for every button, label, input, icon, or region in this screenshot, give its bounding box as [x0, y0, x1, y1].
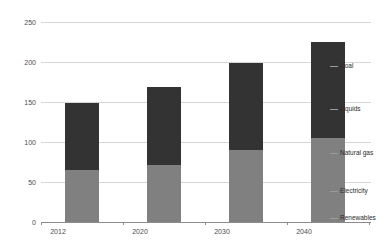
legend: Coal Liquids Natural gas Electricity Ren…: [330, 0, 389, 246]
plot-area: [41, 22, 371, 222]
bar-segment-gray-2012: [65, 170, 99, 222]
bar-segment-dark-2012: [65, 103, 99, 170]
legend-leader-line-natural-gas: [330, 153, 338, 154]
y-tick-label-200: 200: [8, 59, 36, 66]
y-tick-label-0: 0: [8, 219, 36, 226]
legend-label-electricity: Electricity: [340, 187, 368, 194]
gridline-250: [41, 22, 371, 23]
chart-screenshot: 250 200 150 100 50 0: [0, 0, 389, 246]
x-axis-tick: [287, 222, 288, 225]
legend-label-natural-gas: Natural gas: [340, 149, 373, 156]
x-axis-tick: [41, 222, 42, 225]
bar-segment-dark-2030: [229, 63, 263, 150]
x-tick-label-2012: 2012: [28, 228, 88, 235]
legend-leader-line-electricity: [330, 191, 338, 192]
legend-label-renewables: Renewables: [340, 214, 376, 221]
y-tick-label-100: 100: [8, 139, 36, 146]
x-axis-tick: [123, 222, 124, 225]
x-tick-label-2020: 2020: [110, 228, 170, 235]
bar-segment-gray-2030: [229, 150, 263, 222]
x-tick-label-2040: 2040: [274, 228, 334, 235]
legend-label-liquids: Liquids: [340, 105, 361, 112]
legend-leader-line-renewables: [330, 218, 338, 219]
legend-leader-line-liquids: [330, 109, 338, 110]
bar-2020: [147, 87, 181, 222]
bar-segment-gray-2020: [147, 165, 181, 222]
x-axis-tick: [205, 222, 206, 225]
y-tick-label-150: 150: [8, 99, 36, 106]
x-tick-label-2030: 2030: [192, 228, 252, 235]
bar-segment-dark-2020: [147, 87, 181, 165]
y-tick-label-250: 250: [8, 19, 36, 26]
legend-label-coal: Coal: [340, 62, 353, 69]
bar-2012: [65, 103, 99, 222]
y-tick-label-50: 50: [8, 179, 36, 186]
x-axis-line: [41, 222, 371, 223]
bar-2030: [229, 63, 263, 222]
legend-leader-line-coal: [330, 66, 338, 67]
